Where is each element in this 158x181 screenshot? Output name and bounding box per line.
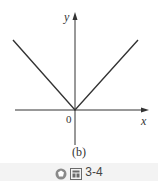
figure: y 0 x (b) 3-4 (0, 0, 158, 181)
origin-label: 0 (66, 114, 72, 125)
hexagon-badge-icon (55, 166, 67, 178)
figure-number: 3-4 (85, 166, 102, 178)
x-axis-arrow-icon (141, 108, 149, 113)
subfigure-label: (b) (0, 146, 158, 158)
y-axis-label: y (64, 11, 69, 23)
figure-caption: 3-4 (0, 163, 158, 181)
y-axis-arrow-icon (73, 12, 78, 20)
graph-canvas (0, 0, 158, 163)
x-axis-label: x (141, 115, 146, 127)
figure-icon (70, 166, 82, 178)
